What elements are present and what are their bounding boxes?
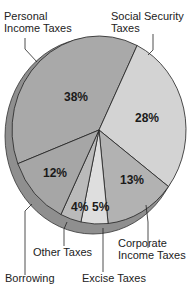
leader-personal xyxy=(25,38,37,62)
label-personal-line1: Personal xyxy=(4,10,47,22)
label-personal-line2: Income Taxes xyxy=(4,22,72,34)
label-excise-taxes: Excise Taxes xyxy=(82,272,146,284)
label-borrowing: Borrowing xyxy=(5,272,55,284)
pct-borrowing: 12% xyxy=(43,166,67,180)
label-social-line2: Taxes xyxy=(111,22,140,34)
pct-excise: 5% xyxy=(92,200,110,214)
label-social-line1: Social Security xyxy=(111,10,184,22)
leader-borrowing xyxy=(25,204,32,275)
label-corporate-line1: Corporate xyxy=(118,237,167,249)
label-corporate-line2: Income Taxes xyxy=(118,249,186,261)
pct-personal: 38% xyxy=(64,90,88,104)
pie-slices xyxy=(12,36,186,224)
pct-social: 28% xyxy=(135,111,159,125)
pct-other: 4% xyxy=(71,200,89,214)
leader-social xyxy=(148,34,153,55)
pct-corporate: 13% xyxy=(120,173,144,187)
label-other-taxes: Other Taxes xyxy=(33,246,92,258)
